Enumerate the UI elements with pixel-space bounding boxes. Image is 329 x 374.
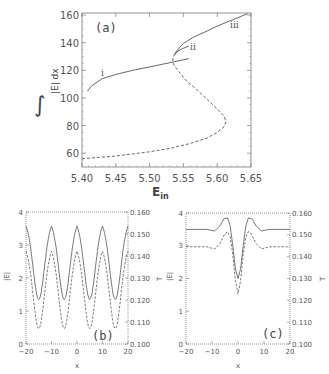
panel-b-ylabel-right: T (156, 276, 164, 282)
x-tick-label: 5.40 (71, 173, 93, 184)
curve-abs-Eabs- (26, 226, 128, 299)
y-right-tick-label: 0.140 (292, 253, 312, 261)
y-right-tick-label: 0.160 (292, 210, 312, 218)
panel-c: −20−1001020012340.1000.1100.1200.1300.14… (166, 210, 327, 371)
panel-c-xlabel: x (236, 362, 240, 370)
panel-b-ticks: −20−1001020012340.1000.1100.1200.1300.14… (19, 209, 151, 357)
curve-T (186, 232, 290, 294)
x-tick-label: −20 (179, 348, 194, 356)
y-tick-label: 140 (60, 38, 79, 49)
panel-b-label: (b) (92, 329, 114, 343)
panel-a-ticks: 5.405.455.505.555.605.656080100120140160 (60, 10, 262, 184)
y-tick-label: 0 (179, 341, 183, 349)
panel-a-frame (82, 13, 251, 167)
y-tick-label: 60 (66, 148, 79, 159)
curve-label-iii: iii (230, 20, 239, 30)
x-tick-label: 5.55 (172, 173, 194, 184)
x-tick-label: 10 (98, 348, 107, 356)
y-right-tick-label: 0.130 (130, 275, 150, 283)
y-tick-label: 100 (60, 93, 79, 104)
curve-label-ii: ii (190, 42, 196, 52)
panel-a-curves (82, 14, 248, 159)
panel-c-ylabel-right: T (319, 276, 327, 282)
x-tick-label: 5.60 (206, 173, 228, 184)
y-tick-label: 1 (179, 308, 183, 316)
panel-c-ylabel-text: |E| (166, 272, 174, 281)
y-tick-label: 1 (19, 308, 23, 316)
y-tick-label: 2 (19, 275, 23, 283)
y-tick-label: 2 (179, 275, 183, 283)
x-tick-label: 0 (75, 348, 79, 356)
panel-c-label: (c) (262, 327, 284, 341)
x-tick-label: 10 (260, 348, 269, 356)
panel-a-label: (a) (95, 21, 117, 35)
y-tick-label: 160 (60, 10, 79, 21)
panel-a-integral-sign: ∫ (34, 92, 45, 117)
panel-b-curves (26, 226, 128, 328)
panel-b-ylabel-right-text: T (156, 276, 164, 282)
y-right-tick-label: 0.150 (130, 231, 150, 239)
panel-a-xlabel: Ein (152, 185, 169, 201)
x-tick-label: −10 (44, 348, 59, 356)
y-right-tick-label: 0.140 (130, 253, 150, 261)
y-right-tick-label: 0.120 (292, 297, 312, 305)
x-tick-label: 0 (236, 348, 240, 356)
y-right-tick-label: 0.100 (130, 341, 150, 349)
panel-b-ylabel-text: |E| (3, 272, 11, 281)
x-tick-label: 20 (286, 348, 295, 356)
y-tick-label: 4 (19, 209, 24, 217)
y-tick-label: 4 (179, 210, 184, 218)
y-right-tick-label: 0.120 (130, 297, 150, 305)
y-tick-label: 3 (179, 242, 183, 250)
x-tick-label: −20 (19, 348, 34, 356)
y-tick-label: 0 (19, 341, 23, 349)
panel-a-ylabel: |E| dx (50, 68, 60, 94)
y-tick-label: 80 (66, 121, 79, 132)
y-right-tick-label: 0.110 (130, 319, 150, 327)
panel-a-ylabel-text: |E| dx (50, 68, 60, 94)
panel-c-curves (186, 218, 290, 294)
x-tick-label: 5.65 (240, 173, 262, 184)
y-right-tick-label: 0.160 (130, 209, 150, 217)
y-right-tick-label: 0.130 (292, 275, 312, 283)
y-right-tick-label: 0.150 (292, 231, 312, 239)
x-tick-label: −10 (205, 348, 220, 356)
y-right-tick-label: 0.110 (292, 319, 312, 327)
panel-a: 5.405.455.505.555.605.656080100120140160… (34, 10, 262, 201)
x-tick-label: 20 (124, 348, 133, 356)
y-right-tick-label: 0.100 (292, 341, 312, 349)
panel-c-ylabel: |E| (166, 272, 174, 281)
curve-label-i: i (101, 68, 104, 78)
panel-a-xlabel-main: E (152, 185, 160, 199)
panel-b-frame (26, 212, 128, 344)
y-tick-label: 3 (19, 242, 23, 250)
panel-c-ylabel-right-text: T (319, 276, 327, 282)
curve-abs-Eabs- (186, 218, 290, 279)
x-tick-label: 5.45 (105, 173, 127, 184)
panel-b: −20−1001020012340.1000.1100.1200.1300.14… (3, 209, 164, 371)
figure: 5.405.455.505.555.605.656080100120140160… (0, 0, 329, 374)
panel-a-xlabel-sub: in (160, 192, 169, 201)
panel-b-ylabel: |E| (3, 272, 11, 281)
panel-b-xlabel: x (75, 362, 79, 370)
x-tick-label: 5.50 (138, 173, 160, 184)
y-tick-label: 120 (60, 65, 79, 76)
